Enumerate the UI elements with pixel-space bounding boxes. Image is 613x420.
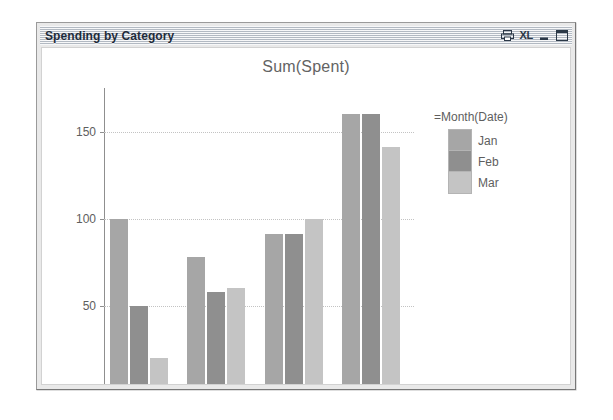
bar-clothes-feb[interactable] [130, 306, 148, 385]
chart-window: Spending by Category XL [36, 22, 576, 390]
bar-petrol-jan[interactable] [342, 114, 360, 385]
legend-items: JanFebMar [448, 129, 472, 194]
print-icon[interactable] [501, 30, 514, 41]
y-tick-mark [100, 132, 104, 133]
bar-food-jan[interactable] [265, 234, 283, 385]
bar-coffee-mar[interactable] [227, 288, 245, 385]
legend-label: Jan [478, 134, 497, 148]
minimize-icon[interactable] [539, 30, 550, 41]
legend-title: =Month(Date) [434, 110, 554, 124]
chart-canvas: Sum(Spent) 050100150 ClothesCoffeeFoodPe… [41, 47, 571, 385]
window-controls: XL [501, 26, 568, 45]
bar-petrol-mar[interactable] [382, 147, 400, 385]
legend-item-jan[interactable]: Jan [449, 130, 471, 151]
bar-food-mar[interactable] [305, 219, 323, 385]
chart-legend: =Month(Date) JanFebMar [434, 110, 554, 194]
plot-area: 050100150 ClothesCoffeeFoodPetrol Catego… [104, 88, 414, 385]
window-title: Spending by Category [40, 29, 174, 43]
legend-label: Feb [478, 155, 499, 169]
y-tick-mark [100, 306, 104, 307]
bar-coffee-jan[interactable] [187, 257, 205, 385]
legend-label: Mar [478, 176, 499, 190]
bar-coffee-feb[interactable] [207, 292, 225, 385]
excel-icon[interactable]: XL [520, 30, 533, 41]
bar-food-feb[interactable] [285, 234, 303, 385]
chart-title: Sum(Spent) [42, 58, 570, 76]
y-tick-mark [100, 219, 104, 220]
bar-petrol-feb[interactable] [362, 114, 380, 385]
bar-clothes-jan[interactable] [110, 219, 128, 385]
legend-item-mar[interactable]: Mar [449, 172, 471, 193]
y-tick-label: 50 [83, 299, 96, 313]
legend-swatch [449, 172, 471, 193]
legend-item-feb[interactable]: Feb [449, 151, 471, 172]
window-title-bar[interactable]: Spending by Category XL [40, 26, 572, 45]
legend-swatch [449, 151, 471, 172]
legend-swatch [449, 130, 471, 151]
y-tick-label: 150 [76, 125, 96, 139]
maximize-icon[interactable] [556, 30, 568, 41]
y-tick-label: 100 [76, 212, 96, 226]
bar-clothes-mar[interactable] [150, 358, 168, 385]
